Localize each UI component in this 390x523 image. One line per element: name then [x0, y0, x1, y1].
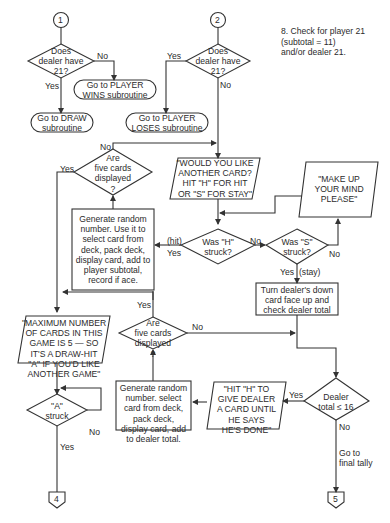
- edge-label-s-no: No: [329, 249, 340, 259]
- edge-label-d1-no: No: [97, 51, 108, 61]
- decision-s-struck: Was "S" struck?: [267, 237, 327, 257]
- connector-1-label: 1: [58, 15, 63, 25]
- decision-dealer-21-second: Does dealer have 21?: [188, 46, 248, 77]
- edge-label-dealer16-yes: Yes: [289, 390, 303, 400]
- connector-2-label: 2: [215, 15, 220, 25]
- edge-label-five-player-yes: Yes: [60, 164, 74, 174]
- edge-label-a-yes: Yes: [60, 442, 74, 452]
- edge-label-five-player-no: No: [100, 142, 111, 152]
- process-player-card: Generate random number. Use it to select…: [72, 214, 154, 285]
- io-max-cards-message: "MAXIMUM NUMBER OF CARDS IN THIS GAME IS…: [18, 318, 110, 379]
- annotation-note: 8. Check for player 21 (subtotal = 11) a…: [281, 26, 365, 58]
- decision-h-struck: Was "H" struck?: [188, 237, 248, 257]
- flowchart: 8. Check for player 21 (subtotal = 11) a…: [0, 0, 390, 523]
- terminal-player-loses-text: Go to PLAYER LOSES subroutine: [126, 113, 208, 133]
- edge-label-dealer16-no: No: [339, 422, 350, 432]
- edge-label-hit: (hit): [167, 236, 182, 246]
- edge-label-d2-yes: Yes: [167, 51, 181, 61]
- io-make-up-mind: "MAKE UP YOUR MIND PLEASE": [300, 174, 378, 205]
- decision-dealer-21-first: Does dealer have 21?: [31, 46, 91, 77]
- edge-label-s-yes: Yes: [280, 267, 294, 277]
- connector-5-label: 5: [333, 494, 338, 504]
- terminal-draw-text: Go to DRAW subroutine: [31, 113, 93, 133]
- edge-label-s-stay: (stay): [299, 267, 320, 277]
- connector-4-label: 4: [54, 494, 59, 504]
- edge-label-d1-yes: Yes: [45, 81, 59, 91]
- edge-label-a-no: No: [89, 427, 100, 437]
- io-another-card-prompt: "WOULD YOU LIKE ANOTHER CARD? HIT "H" FO…: [170, 158, 260, 199]
- edge-label-five-dealer-no: No: [192, 322, 203, 332]
- io-hit-dealer-message: "HIT "H" TO GIVE DEALER A CARD UNTIL HE …: [207, 384, 286, 435]
- edge-label-d2-no: No: [220, 80, 231, 90]
- process-turn-dealer-card: Turn dealer's down card face up and chec…: [256, 285, 338, 316]
- decision-five-cards-player: Are five cards displayed ?: [83, 153, 143, 194]
- edge-label-five-dealer-yes: Yes: [137, 300, 151, 310]
- decision-a-struck: "A" struck: [32, 401, 82, 421]
- decision-five-cards-dealer: Are five cards displayed ?: [123, 318, 183, 359]
- edge-label-h-yes: Yes: [167, 248, 181, 258]
- process-dealer-card: Generate random number. select card from…: [116, 383, 191, 444]
- edge-label-h-no: No: [250, 236, 261, 246]
- flowchart-lines: [0, 0, 390, 523]
- terminal-player-wins-text: Go to PLAYER WINS subroutine: [74, 80, 156, 100]
- decision-dealer-total-16: Dealer total ≤ 16: [306, 392, 366, 412]
- go-to-final-tally: Go to final tally: [339, 448, 389, 468]
